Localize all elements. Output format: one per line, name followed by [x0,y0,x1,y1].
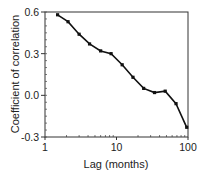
plot-frame [45,12,188,137]
y-tick-label: 0.0 [24,89,39,101]
x-axis-label: Lag (months) [84,158,149,170]
data-point-marker [121,63,124,66]
data-point-marker [131,76,134,79]
y-tick-label: 0.3 [24,48,39,60]
x-axis-ticks: 110100 [42,137,197,153]
series-line [58,15,187,128]
y-tick-label: 0.6 [24,6,39,18]
data-point-marker [78,33,81,36]
data-point-marker [174,102,177,105]
correlation-chart: 0.60.30.0-0.3 110100 Lag (months) Coeffi… [0,0,207,177]
data-point-marker [56,13,59,16]
data-point-marker [142,87,145,90]
x-tick-label: 10 [111,141,123,153]
data-point-marker [164,90,167,93]
data-point-marker [185,126,188,129]
data-point-marker [66,20,69,23]
y-axis-label: Coefficient of correlation [9,15,21,133]
data-point-marker [153,91,156,94]
x-tick-label: 1 [42,141,48,153]
data-point-marker [109,52,112,55]
y-axis-ticks: 0.60.30.0-0.3 [21,6,47,143]
data-point-marker [88,42,91,45]
y-tick-label: -0.3 [21,131,39,143]
x-tick-label: 100 [179,141,197,153]
data-point-marker [99,49,102,52]
